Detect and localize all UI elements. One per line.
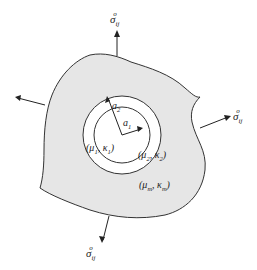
a2-sub: 2	[117, 106, 120, 113]
matrix-mu-sub: m	[147, 185, 152, 192]
stress-label-top: σijo	[110, 13, 117, 28]
stress-sup: o	[89, 244, 93, 252]
stress-arrow-left-head	[15, 95, 21, 101]
stress-label-right: σijo	[233, 110, 240, 125]
stress-arrow-bottom-line	[103, 216, 109, 240]
core-mu-sub: 1	[94, 148, 97, 155]
matrix-kappa-sub: m	[162, 185, 167, 192]
stress-arrow-bottom-head	[99, 236, 105, 243]
stress-sub: ij	[238, 117, 242, 125]
stress-sub: ij	[115, 20, 119, 28]
stress-sup: o	[236, 107, 240, 115]
stress-sub: ij	[91, 254, 95, 262]
core-kappa-sub: 1	[107, 148, 110, 155]
stress-arrow-top-head	[114, 30, 120, 37]
shell-mu-sub: 2	[146, 155, 149, 162]
shell-phase-label: (μ2, κ2)	[138, 150, 166, 163]
stress-arrow-right-line	[200, 117, 228, 128]
stress-arrow-right-head	[224, 115, 231, 121]
stress-arrow-left-line	[18, 98, 45, 105]
matrix-phase-label: (μm, κm)	[139, 180, 170, 193]
core-phase-label: (μ1, κ1)	[86, 143, 114, 156]
a1-sub: 1	[128, 123, 131, 130]
shell-kappa-sub: 2	[159, 155, 162, 162]
radius-a1-label: a1	[123, 118, 131, 131]
stress-label-bottom: σijo	[86, 247, 93, 262]
diagram-canvas	[0, 0, 257, 270]
radius-a2-label: a2	[112, 101, 120, 114]
stress-sup: o	[113, 10, 117, 18]
